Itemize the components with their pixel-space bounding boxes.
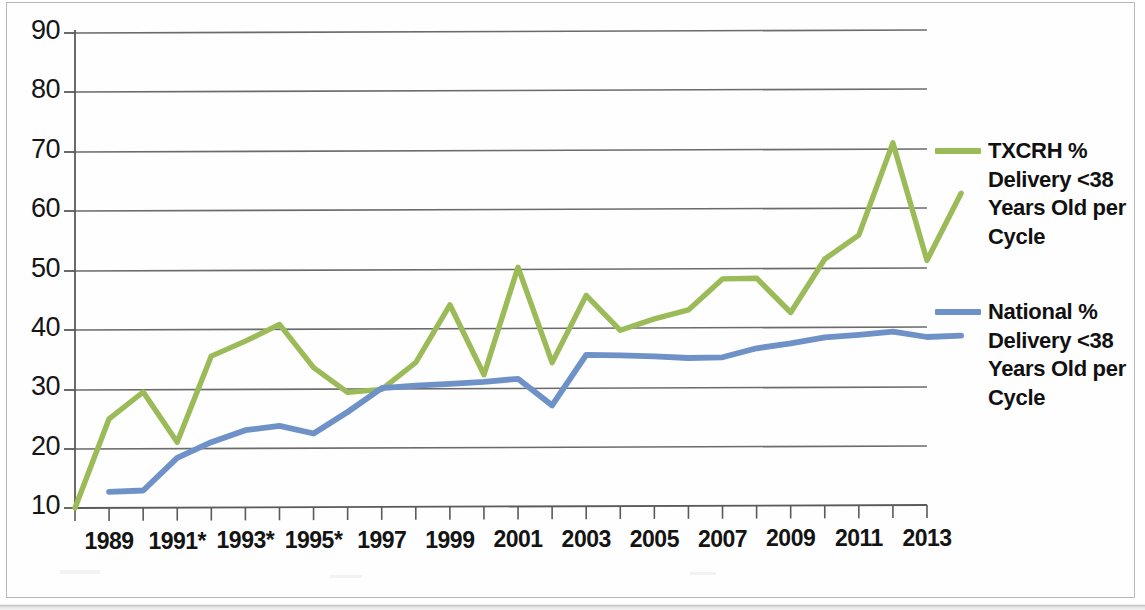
legend-entry-txcrh[interactable]: TXCRH % Delivery <38 Years Old per Cycle xyxy=(935,137,1136,251)
legend-entry-national[interactable]: National % Delivery <38 Years Old per Cy… xyxy=(935,298,1136,412)
y-tick-label-60: 60 xyxy=(0,193,60,224)
legend-label-national: National % Delivery <38 Years Old per Cy… xyxy=(988,298,1136,412)
gridline-80 xyxy=(75,89,927,92)
gridline-60 xyxy=(75,208,927,211)
y-tick-label-90: 90 xyxy=(0,15,60,46)
y-tick-label-20: 20 xyxy=(0,431,60,462)
y-tick-label-80: 80 xyxy=(0,74,60,105)
gridline-90 xyxy=(75,30,927,33)
legend-color-swatch-national xyxy=(935,309,981,315)
y-tick-label-70: 70 xyxy=(0,134,60,165)
y-tick-label-30: 30 xyxy=(0,371,60,402)
chart-page: 908070605040302010 19891991*1993*1995*19… xyxy=(0,0,1145,610)
x-tick-label-2013: 2013 xyxy=(887,525,967,552)
y-axis-ticks xyxy=(64,33,75,508)
x-axis-line xyxy=(75,505,927,508)
y-tick-label-50: 50 xyxy=(0,253,60,284)
legend-label-txcrh: TXCRH % Delivery <38 Years Old per Cycle xyxy=(988,137,1136,251)
y-tick-label-40: 40 xyxy=(0,312,60,343)
gridline-70 xyxy=(75,149,927,152)
gridlines xyxy=(75,30,927,449)
legend-color-swatch-txcrh xyxy=(935,148,981,154)
gridline-30 xyxy=(75,387,927,390)
gridline-50 xyxy=(75,268,927,271)
series-line-national xyxy=(109,332,961,492)
series-line-txcrh xyxy=(75,143,961,508)
y-tick-label-10: 10 xyxy=(0,490,60,521)
